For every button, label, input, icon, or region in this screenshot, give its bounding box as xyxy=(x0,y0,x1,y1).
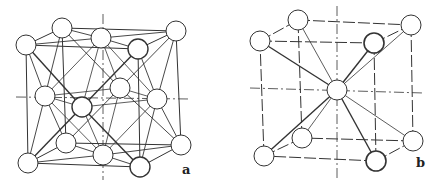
bond-line xyxy=(298,20,337,90)
bond-line xyxy=(45,28,62,96)
atom-bbr xyxy=(171,135,191,155)
panel-b-label: b xyxy=(416,155,425,170)
atom-front xyxy=(72,97,92,117)
atom-ftl xyxy=(16,35,36,55)
atom-back xyxy=(110,78,130,98)
atom-bbl xyxy=(292,128,312,148)
bond-line xyxy=(302,138,413,141)
bond-line xyxy=(411,25,413,141)
bond-line xyxy=(260,41,264,156)
atom-bbl xyxy=(56,133,76,153)
atom-ftl xyxy=(250,31,270,51)
bond-line xyxy=(101,31,176,38)
bond-line xyxy=(298,20,411,25)
atom-fbl xyxy=(18,153,38,173)
bond-line xyxy=(176,31,181,145)
bond-line xyxy=(374,43,376,161)
bond-line xyxy=(26,38,101,45)
atom-btl xyxy=(52,18,72,38)
atom-fbl xyxy=(254,146,274,166)
bond-line xyxy=(45,88,120,96)
bond-line xyxy=(138,49,140,167)
bond-line xyxy=(103,99,157,155)
bond-line xyxy=(28,155,103,163)
bond-line xyxy=(26,45,28,163)
atom-left xyxy=(35,86,55,106)
bond-line xyxy=(82,99,157,107)
atom-btl xyxy=(288,10,308,30)
bond-line xyxy=(28,163,140,167)
atom-bottom xyxy=(93,145,113,165)
atom-center xyxy=(327,80,347,100)
bond-line xyxy=(62,28,176,31)
atom-fbr xyxy=(130,157,150,177)
atom-ftr xyxy=(364,33,384,53)
atom-btr xyxy=(166,21,186,41)
bond-line xyxy=(103,145,181,155)
bond-line xyxy=(260,41,337,90)
bond-line xyxy=(264,156,376,161)
atom-right xyxy=(147,89,167,109)
atom-bbr xyxy=(403,131,423,151)
atom-btr xyxy=(401,15,421,35)
atom-ftr xyxy=(128,39,148,59)
bond-line xyxy=(66,143,181,145)
atom-top xyxy=(91,28,111,48)
panel-a-label: a xyxy=(182,162,190,177)
bond-line xyxy=(337,90,376,161)
bond-line xyxy=(260,41,374,43)
atom-fbr xyxy=(366,151,386,171)
crystal-diagram xyxy=(0,0,439,189)
bond-line xyxy=(298,20,302,138)
